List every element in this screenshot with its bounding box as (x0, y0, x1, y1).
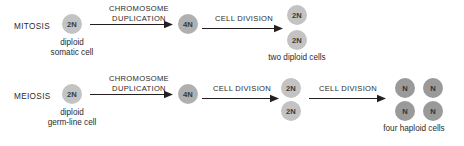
meiosis-intermediate-cell-2: 2N (281, 101, 301, 121)
meiosis-output-caption: four haploid cells (364, 124, 464, 134)
meiosis-output-cell-2: N (423, 78, 443, 98)
mitosis-mid-cell: 4N (178, 14, 198, 34)
mitosis-output-cell-1: 2N (287, 5, 307, 25)
meiosis-duplication-arrow (90, 90, 174, 99)
process-label-meiosis: MEIOSIS (14, 92, 51, 101)
mitosis-duplication-arrow (90, 20, 174, 29)
meiosis-step1-label-line1: CHROMOSOME (96, 74, 182, 84)
meiosis-start-caption-line1: diploid (22, 108, 122, 118)
mitosis-output-cell-2: 2N (287, 30, 307, 50)
meiosis-output-cell-1: N (395, 78, 415, 98)
mitosis-step1-label-line1: CHROMOSOME (96, 4, 182, 14)
meiosis-output-cell-3: N (395, 101, 415, 121)
process-label-mitosis: MITOSIS (14, 22, 50, 31)
mitosis-division-arrow (202, 24, 284, 33)
mitosis-step2-label: CELL DIVISION (204, 14, 284, 24)
meiosis-start-cell: 2N (62, 84, 82, 104)
meiosis-division-arrow-1 (202, 94, 280, 103)
meiosis-step2-label: CELL DIVISION (204, 84, 280, 94)
meiosis-intermediate-cell-1: 2N (281, 78, 301, 98)
mitosis-output-caption: two diploid cells (242, 53, 352, 63)
mitosis-start-cell: 2N (62, 14, 82, 34)
meiosis-mid-cell: 4N (178, 84, 198, 104)
mitosis-meiosis-diagram: MITOSIS 2N diploid somatic cell CHROMOSO… (0, 0, 464, 146)
meiosis-step3-label: CELL DIVISION (310, 84, 386, 94)
meiosis-division-arrow-2 (309, 94, 387, 103)
mitosis-start-caption-line1: diploid (22, 38, 122, 48)
meiosis-start-caption-line2: germ-line cell (22, 118, 122, 128)
meiosis-output-cell-4: N (423, 101, 443, 121)
mitosis-start-caption-line2: somatic cell (22, 48, 122, 58)
